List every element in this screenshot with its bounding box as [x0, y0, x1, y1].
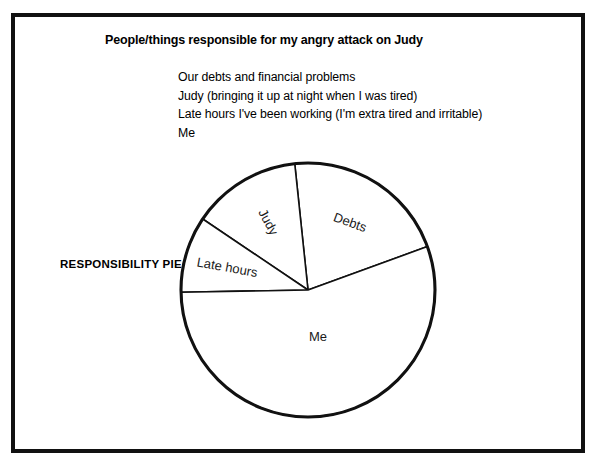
list-item: Late hours I've been working (I'm extra …: [178, 105, 482, 124]
worksheet-page: People/things responsible for my angry a…: [0, 0, 603, 469]
pie-chart-svg: DebtsJudyLate hoursMe: [172, 153, 447, 429]
responsibility-pie-caption: RESPONSIBILITY PIE: [60, 258, 182, 270]
list-item: Our debts and financial problems: [178, 68, 482, 87]
responsible-items-list: Our debts and financial problems Judy (b…: [178, 68, 482, 142]
page-title: People/things responsible for my angry a…: [105, 33, 423, 47]
list-item: Judy (bringing it up at night when I was…: [178, 87, 482, 106]
responsibility-pie-chart: DebtsJudyLate hoursMe: [172, 153, 447, 429]
pie-slice-label-me: Me: [309, 329, 327, 344]
list-item: Me: [178, 124, 482, 143]
